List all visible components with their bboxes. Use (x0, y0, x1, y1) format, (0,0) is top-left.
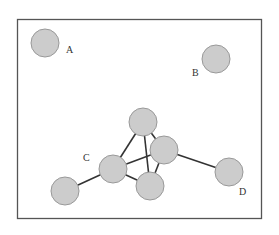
label-d: D (239, 186, 246, 197)
node-left (51, 177, 79, 205)
nodes (31, 29, 243, 205)
node-top (129, 108, 157, 136)
node-bottom (136, 172, 164, 200)
network-diagram: A B C D (0, 0, 279, 235)
node-c (99, 155, 127, 183)
node-b (202, 45, 230, 73)
label-a: A (66, 44, 74, 55)
label-c: C (83, 152, 90, 163)
node-d (215, 158, 243, 186)
node-right (150, 136, 178, 164)
node-a (31, 29, 59, 57)
label-b: B (192, 67, 199, 78)
